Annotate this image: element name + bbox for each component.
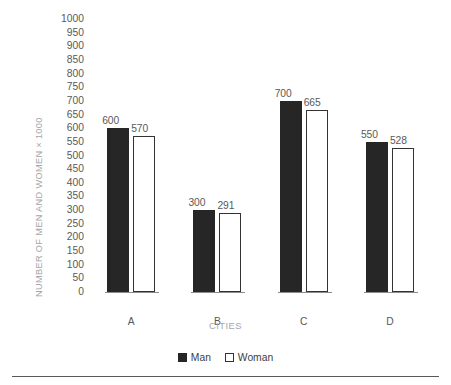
legend-label-woman: Woman bbox=[238, 352, 273, 363]
y-axis-tick-label: 50 bbox=[40, 273, 84, 283]
y-axis-tick-label: 1000 bbox=[40, 14, 84, 24]
y-axis-tick-label: 400 bbox=[40, 178, 84, 188]
y-axis-tick-label: 950 bbox=[40, 28, 84, 38]
legend-item-man: Man bbox=[178, 352, 211, 363]
group-baseline bbox=[364, 292, 418, 293]
bottom-divider bbox=[12, 376, 439, 377]
bar-man-d[interactable] bbox=[366, 142, 388, 292]
y-axis-tick-labels: 0501001502002503003504004505005506006507… bbox=[40, 14, 84, 300]
bar-group: 550528 bbox=[360, 19, 420, 292]
plot-area: 600570A300291B700665C550528D bbox=[88, 19, 433, 292]
bar-value-label: 291 bbox=[217, 200, 234, 211]
bar-group: 600570 bbox=[101, 19, 161, 292]
bar-value-label: 528 bbox=[390, 135, 407, 146]
y-axis-tick-label: 500 bbox=[40, 151, 84, 161]
bar-woman-b[interactable] bbox=[219, 213, 241, 292]
bar-man-a[interactable] bbox=[107, 128, 129, 292]
y-axis-tick-label: 250 bbox=[40, 219, 84, 229]
bar-man-c[interactable] bbox=[280, 101, 302, 292]
y-axis-tick-label: 350 bbox=[40, 191, 84, 201]
y-axis-tick-label: 900 bbox=[40, 41, 84, 51]
group-baseline bbox=[191, 292, 245, 293]
bar-group: 700665 bbox=[274, 19, 334, 292]
y-axis-tick-label: 600 bbox=[40, 123, 84, 133]
legend-swatch-man-icon bbox=[178, 353, 187, 362]
bar-group: 300291 bbox=[187, 19, 247, 292]
bar-value-label: 700 bbox=[275, 88, 292, 99]
bar-chart: NUMBER OF MEN AND WOMEN × 1000 050100150… bbox=[0, 0, 451, 385]
group-baseline bbox=[105, 292, 159, 293]
bar-man-b[interactable] bbox=[193, 210, 215, 292]
y-axis-tick-label: 750 bbox=[40, 82, 84, 92]
bar-value-label: 665 bbox=[304, 97, 321, 108]
y-axis-tick-label: 200 bbox=[40, 232, 84, 242]
bar-value-label: 300 bbox=[188, 197, 205, 208]
y-axis-tick-label: 450 bbox=[40, 164, 84, 174]
y-axis-tick-label: 650 bbox=[40, 110, 84, 120]
y-axis-tick-label: 100 bbox=[40, 260, 84, 270]
group-baseline bbox=[278, 292, 332, 293]
bar-value-label: 600 bbox=[102, 115, 119, 126]
legend-swatch-woman-icon bbox=[225, 353, 234, 362]
y-axis-tick-label: 300 bbox=[40, 205, 84, 215]
legend-label-man: Man bbox=[191, 352, 211, 363]
y-axis-tick-label: 850 bbox=[40, 55, 84, 65]
bar-woman-d[interactable] bbox=[392, 148, 414, 292]
legend-item-woman: Woman bbox=[225, 352, 273, 363]
bar-value-label: 550 bbox=[361, 129, 378, 140]
y-axis-tick-label: 550 bbox=[40, 137, 84, 147]
x-axis-title: CITIES bbox=[0, 320, 451, 331]
bar-woman-a[interactable] bbox=[133, 136, 155, 292]
bar-value-label: 570 bbox=[131, 123, 148, 134]
chart-legend: Man Woman bbox=[0, 352, 451, 363]
y-axis-tick-label: 150 bbox=[40, 246, 84, 256]
y-axis-tick-label: 700 bbox=[40, 96, 84, 106]
bar-woman-c[interactable] bbox=[306, 110, 328, 292]
y-axis-tick-label: 0 bbox=[40, 287, 84, 297]
y-axis-tick-label: 800 bbox=[40, 69, 84, 79]
